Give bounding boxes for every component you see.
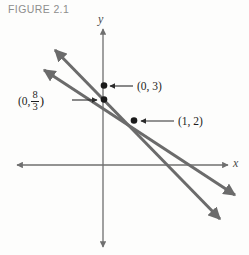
figure-container: FIGURE 2.1 y xyxy=(0,0,249,255)
fraction-label-suffix: ) xyxy=(40,93,44,109)
line-slope-neg-1 xyxy=(55,50,220,219)
fraction-label-prefix: (0, xyxy=(18,95,30,107)
fraction-numerator: 8 xyxy=(31,90,38,101)
point-1-2 xyxy=(131,117,138,124)
label-point-1-2: (1, 2) xyxy=(178,115,203,127)
y-axis-label: y xyxy=(98,12,103,27)
fraction-8-over-3: 8 3 xyxy=(31,90,38,112)
coordinate-plot xyxy=(0,0,249,255)
label-point-0-8-over-3: (0, 8 3 ) xyxy=(18,90,44,112)
fraction-denominator: 3 xyxy=(31,102,38,113)
point-0-8-over-3 xyxy=(101,96,108,103)
point-0-3 xyxy=(101,82,108,89)
x-axis-label: x xyxy=(233,156,238,171)
label-point-0-3: (0, 3) xyxy=(137,80,162,92)
